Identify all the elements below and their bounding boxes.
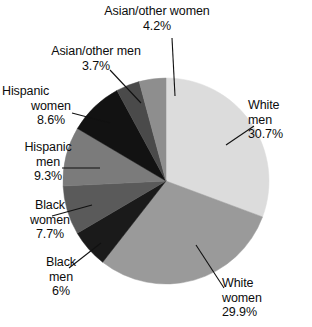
slice-label-line: Hispanic <box>2 84 100 99</box>
slice-label-line: Hispanic <box>0 140 96 155</box>
slice-label-line: Asian/other men <box>30 44 162 59</box>
slice-value-line: 29.9% <box>222 305 308 320</box>
slice-value-line: 8.6% <box>2 113 100 128</box>
slice-label-line: women <box>4 213 96 228</box>
slice-label-line: women <box>222 291 308 306</box>
slice-value-line: 3.7% <box>30 59 162 74</box>
slice-label-white-men: White men 30.7% <box>248 98 310 142</box>
slice-label-line: men <box>18 270 104 285</box>
slice-label-asian-other-men: Asian/other men 3.7% <box>30 44 162 73</box>
slice-label-line: women <box>2 99 100 114</box>
slice-label-line: White <box>248 98 310 113</box>
slice-label-line: White <box>222 276 308 291</box>
slice-label-white-women: White women 29.9% <box>222 276 308 320</box>
slice-label-hispanic-men: Hispanic men 9.3% <box>0 140 96 184</box>
slice-label-black-men: Black men 6% <box>18 255 104 299</box>
slice-value-line: 9.3% <box>0 169 96 184</box>
slice-label-hispanic-women: Hispanic women 8.6% <box>2 84 100 128</box>
slice-label-line: Asian/other women <box>84 4 230 19</box>
slice-label-black-women: Black women 7.7% <box>4 198 96 242</box>
slice-value-line: 30.7% <box>248 127 310 142</box>
slice-label-line: Black <box>18 255 104 270</box>
slice-label-line: men <box>0 155 96 170</box>
slice-label-line: men <box>248 113 310 128</box>
slice-value-line: 4.2% <box>84 19 230 34</box>
slice-value-line: 7.7% <box>4 227 96 242</box>
pie-chart: Asian/other women 4.2% Asian/other men 3… <box>0 0 312 327</box>
slice-value-line: 6% <box>18 284 104 299</box>
slice-label-asian-other-women: Asian/other women 4.2% <box>84 4 230 33</box>
slice-label-line: Black <box>4 198 96 213</box>
